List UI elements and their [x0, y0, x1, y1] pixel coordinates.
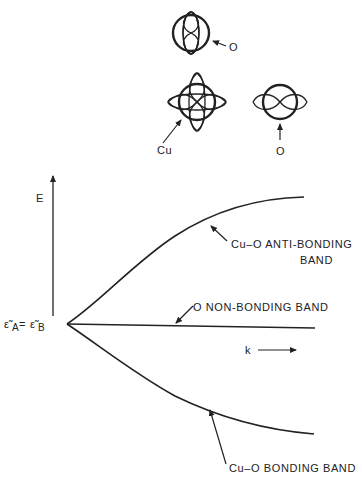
top-o-orbital-icon: [173, 12, 209, 54]
right-o-label: O: [276, 145, 285, 157]
bonding-label: Cu–O BONDING BAND: [229, 462, 356, 474]
nonbonding-band-line: [67, 324, 315, 328]
k-axis-label: k: [245, 344, 251, 356]
top-o-label: O: [229, 41, 238, 53]
right-o-orbital-icon: [253, 85, 307, 119]
svg-text:=: =: [19, 318, 26, 330]
cu-label: Cu: [157, 144, 172, 156]
cu-d-orbital-icon: [168, 73, 226, 131]
bonding-band-curve: [67, 324, 314, 434]
top-o-pointer: [213, 41, 226, 46]
origin-energy-label: ε̃ A = ε̃ B: [4, 318, 45, 333]
antibonding-label-line2: BAND: [300, 254, 333, 266]
bonding-pointer: [210, 410, 226, 464]
antibonding-pointer: [211, 226, 227, 241]
svg-text:B: B: [38, 322, 45, 333]
cu-pointer: [163, 120, 181, 143]
svg-text:A: A: [12, 322, 19, 333]
nonbonding-label: O NON-BONDING BAND: [193, 301, 328, 313]
antibonding-label-line1: Cu–O ANTI-BONDING: [231, 238, 352, 250]
band-structure-diagram: O Cu O E ε̃ A = ε̃ B Cu–O ANTI-BONDING B…: [0, 0, 362, 478]
nonbonding-pointer: [176, 306, 193, 323]
energy-axis-label: E: [36, 192, 44, 204]
